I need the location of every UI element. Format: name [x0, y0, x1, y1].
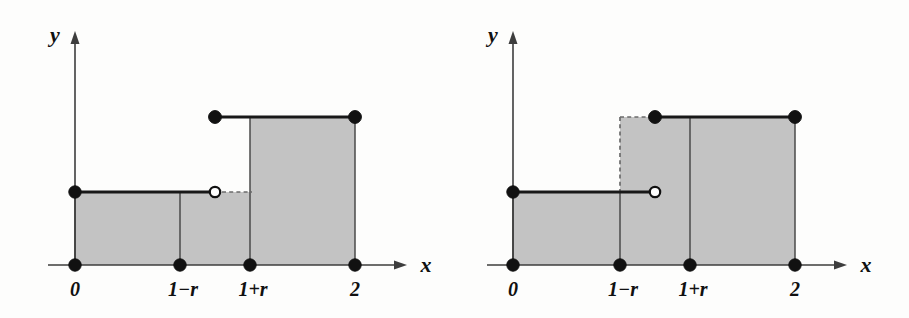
left-tick-label-0: 0 — [70, 278, 80, 300]
left-shaded-lower-block — [75, 192, 250, 265]
figure-container: y x 0 1−r 1+r 2 — [0, 0, 909, 318]
left-lower-step-open-endpoint — [210, 187, 220, 197]
left-y-axis-arrowhead — [71, 31, 80, 44]
right-tick-label-2: 2 — [789, 278, 800, 300]
right-x-axis-label: x — [860, 252, 872, 277]
right-tick-label-1mr: 1−r — [608, 278, 638, 300]
step-function-figure: y x 0 1−r 1+r 2 — [0, 0, 909, 318]
left-tick-label-1pr: 1+r — [238, 278, 267, 300]
left-upper-step-right-endpoint — [349, 111, 362, 124]
left-lower-step-left-endpoint — [69, 186, 81, 198]
left-y-axis-label: y — [47, 22, 60, 47]
right-tick-dot-1pr — [684, 259, 696, 271]
left-tick-dot-2 — [349, 259, 361, 271]
right-tick-label-1pr: 1+r — [678, 278, 707, 300]
right-upper-step-right-endpoint — [789, 111, 802, 124]
right-step-function-panel: y x 0 1−r 1+r 2 — [485, 22, 871, 300]
left-tick-dot-1pr — [244, 259, 256, 271]
left-upper-step-left-endpoint — [209, 111, 222, 124]
right-x-axis-arrowhead — [834, 261, 847, 270]
left-tick-dot-1mr — [174, 259, 186, 271]
right-tick-dot-2 — [789, 259, 801, 271]
left-step-function-panel: y x 0 1−r 1+r 2 — [47, 22, 431, 300]
right-lower-step-open-endpoint — [650, 187, 660, 197]
right-tick-dot-0 — [507, 259, 519, 271]
right-shaded-lower-block — [513, 192, 620, 265]
right-y-axis-arrowhead — [509, 31, 518, 44]
left-x-axis-label: x — [420, 252, 432, 277]
right-y-axis-label: y — [485, 22, 498, 47]
right-tick-label-0: 0 — [508, 278, 518, 300]
left-tick-label-2: 2 — [349, 278, 360, 300]
right-upper-step-left-endpoint — [649, 111, 662, 124]
right-tick-dot-1mr — [614, 259, 626, 271]
left-tick-dot-0 — [69, 259, 81, 271]
left-tick-label-1mr: 1−r — [168, 278, 198, 300]
left-x-axis-arrowhead — [394, 261, 407, 270]
right-lower-step-left-endpoint — [507, 186, 519, 198]
left-shaded-upper-block — [250, 117, 355, 265]
